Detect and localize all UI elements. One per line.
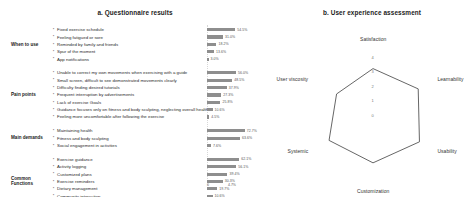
bar xyxy=(207,165,236,168)
bar-row: ▪Small screen, difficult to see demonstr… xyxy=(52,77,270,84)
bar-category-label: Dietary management xyxy=(57,186,98,191)
bar-value-zone: 3.0% xyxy=(207,55,219,62)
bar-group-label: Common Functions xyxy=(0,156,52,197)
radar-chart: SatisfactionLearnabilityUsabilityCustomi… xyxy=(270,0,474,197)
bar-value-label: 31.0% xyxy=(225,35,235,39)
axis-tick-label: 4.7% xyxy=(228,183,236,187)
bar-group: Pain points▪Unable to correct my own mov… xyxy=(0,69,270,120)
bar-category-label: Customized plans xyxy=(57,172,92,177)
bar-category-label: Difficulty finding desired tutorials xyxy=(57,85,120,90)
bar-value-label: 62.1% xyxy=(241,157,251,161)
radar-tick-label: 0 xyxy=(372,113,374,118)
bar-row: ▪Feeling fatigued or sore31.0% xyxy=(52,33,270,40)
bar xyxy=(207,144,211,147)
bar-value-label: 10.6% xyxy=(215,108,225,112)
bar-row: ▪Exercise guidance62.1% xyxy=(52,156,270,163)
bar-value-label: 10.6% xyxy=(215,194,225,197)
bar-category-label: Spur of the moment xyxy=(57,49,95,54)
bar-row: ▪Guidance focuses only on fitness and bo… xyxy=(52,106,270,113)
bar-category-label: Small screen, difficult to see demonstra… xyxy=(57,78,177,83)
bar-value-zone: 63.6% xyxy=(207,135,252,142)
bar-value-label: 56.0% xyxy=(238,71,248,75)
radar-axis-label: Satisfaction xyxy=(360,36,386,42)
bar-group-label: Pain points xyxy=(0,69,52,120)
bar-category-label: Frequent interruption by advertisements xyxy=(57,92,134,97)
bar-group-rows: ▪Maintaining health72.7%▪Fitness and bod… xyxy=(52,127,270,149)
bar-value-zone: 62.1% xyxy=(207,156,251,163)
bar xyxy=(207,93,221,96)
bar-group: Main demands▪Maintaining health72.7%▪Fit… xyxy=(0,127,270,149)
bar xyxy=(207,129,245,132)
bar-value-zone: 31.0% xyxy=(207,33,235,40)
bar-value-label: 3.0% xyxy=(211,57,219,61)
bar-category-label: Maintaining health xyxy=(57,128,92,133)
radar-tick-label: 1 xyxy=(372,98,374,103)
bar-row: ▪Fitness and body sculpting63.6% xyxy=(52,135,270,142)
bar-value-label: 56.1% xyxy=(238,165,248,169)
radar-polygon xyxy=(329,69,419,163)
bar-category-label: Feeling more uncomfortable after followi… xyxy=(57,114,164,119)
bar-value-label: 63.6% xyxy=(242,136,252,140)
bar xyxy=(207,108,213,111)
radar-axis-label: Systemic xyxy=(288,148,309,154)
bar-category-label: App notifications xyxy=(57,57,89,62)
bar-group-label: When to use xyxy=(0,26,52,63)
bar-category-label: Social engagement in activities xyxy=(57,143,117,148)
bar-value-label: 7.6% xyxy=(213,144,221,148)
bar-row: ▪Difficulty finding desired tutorials37.… xyxy=(52,84,270,91)
radar-axis-label: Customization xyxy=(357,188,389,194)
bar-row: ▪Spur of the moment13.6% xyxy=(52,48,270,55)
bar-row: ▪App notifications3.0% xyxy=(52,55,270,62)
bar-category-label: Exercise guidance xyxy=(57,157,93,162)
bar-group: When to use▪Fixed exercise schedule54.5%… xyxy=(0,26,270,63)
bar xyxy=(207,35,223,38)
panel-questionnaire-results: a. Questionnaire results When to use▪Fix… xyxy=(0,0,270,197)
bar-value-label: 48.5% xyxy=(234,78,244,82)
bar-row: ▪Social engagement in activities7.6% xyxy=(52,142,270,149)
bar-row: ▪Reminded by family and friends18.2% xyxy=(52,41,270,48)
bar-category-label: Fitness and body sculpting xyxy=(57,136,109,141)
bar-group-rows: ▪Unable to correct my own movements when… xyxy=(52,69,270,120)
bar-value-zone: 7.6% xyxy=(207,142,221,149)
bar-row: ▪Customized plans39.4% xyxy=(52,170,270,177)
bar xyxy=(207,101,220,104)
bar xyxy=(207,158,239,161)
bar-row: ▪Frequent interruption by advertisements… xyxy=(52,91,270,98)
bar-category-label: Guidance focuses only on fitness and bod… xyxy=(57,107,208,112)
bar-row: ▪Fixed exercise schedule54.5% xyxy=(52,26,270,33)
bar-row: ▪Activity logging56.1% xyxy=(52,163,270,170)
bar xyxy=(207,50,214,53)
panel-a-title: a. Questionnaire results xyxy=(0,9,270,16)
bar-value-zone: 37.9% xyxy=(207,84,239,91)
bar-group-rows: ▪Fixed exercise schedule54.5%▪Feeling fa… xyxy=(52,26,270,63)
bar-value-zone: 48.5% xyxy=(207,77,244,84)
axis-tick-label: 0 xyxy=(207,183,209,187)
radar-tick-label: 3 xyxy=(372,69,374,74)
bar xyxy=(207,43,216,46)
bar-row: ▪Community interaction10.6% xyxy=(52,192,270,197)
bar-value-zone: 72.7% xyxy=(207,127,257,134)
bar xyxy=(207,86,227,89)
bar-value-zone: 25.8% xyxy=(207,99,233,106)
bar xyxy=(207,137,240,140)
bar-category-label: Exercise reminders xyxy=(57,179,94,184)
bar xyxy=(207,173,227,176)
bar xyxy=(207,195,213,197)
bar-row: ▪Feeling more uncomfortable after follow… xyxy=(52,113,270,120)
bar-category-label: Activity logging xyxy=(57,164,86,169)
bar-category-label: Fixed exercise schedule xyxy=(57,27,104,32)
bar-row: ▪Lack of exercise Goals25.8% xyxy=(52,99,270,106)
radar-axis-label: User viscosity xyxy=(277,76,309,82)
bar-value-zone: 13.6% xyxy=(207,48,226,55)
bar-value-label: 25.8% xyxy=(222,100,232,104)
bar-value-zone: 4.5% xyxy=(207,113,220,120)
bar-value-zone: 56.0% xyxy=(207,69,248,76)
bar-value-zone: 18.2% xyxy=(207,41,229,48)
bar xyxy=(207,58,209,61)
radar-tick-label: 4 xyxy=(372,55,374,60)
bar-row: ▪Maintaining health72.7% xyxy=(52,127,270,134)
bar-value-label: 4.5% xyxy=(211,115,219,119)
bar xyxy=(207,71,236,74)
bar-value-label: 27.3% xyxy=(223,93,233,97)
panel-user-experience-assessment: b. User experience assessment Satisfacti… xyxy=(270,0,474,197)
